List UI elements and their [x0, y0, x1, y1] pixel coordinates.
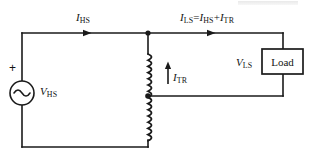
- label-current-ls-equation: ILS=IHS+ITR: [180, 12, 234, 25]
- label-voltage-ls-symbol: V: [236, 56, 243, 68]
- load-box-label: Load: [262, 49, 303, 74]
- ihs-arrow-icon: [83, 30, 92, 36]
- label-current-hs: IHS: [76, 12, 90, 25]
- label-ils-term2-subscript: TR: [224, 16, 235, 25]
- ils-arrow-icon: [207, 30, 216, 36]
- label-current-hs-subscript: HS: [80, 16, 91, 25]
- label-voltage-hs-subscript: HS: [47, 90, 58, 99]
- label-current-tr-subscript: TR: [177, 76, 188, 85]
- circuit-diagram-canvas: IHS ILS=IHS+ITR VHS ITR VLS + Load: [0, 0, 309, 163]
- ac-voltage-source: [10, 81, 34, 105]
- node-top-junction: [145, 30, 150, 35]
- label-current-tr: ITR: [173, 72, 187, 85]
- node-tap-junction: [145, 93, 151, 99]
- label-voltage-hs-symbol: V: [40, 85, 47, 97]
- itr-arrow-icon: [165, 62, 171, 85]
- label-voltage-hs: VHS: [40, 86, 57, 99]
- circuit-schematic-svg: [0, 0, 309, 163]
- label-ils-term1-subscript: HS: [203, 16, 214, 25]
- label-ils-subscript: LS: [184, 16, 194, 25]
- label-voltage-ls-subscript: LS: [243, 61, 253, 70]
- label-source-polarity: +: [9, 62, 16, 74]
- label-voltage-ls: VLS: [236, 57, 252, 70]
